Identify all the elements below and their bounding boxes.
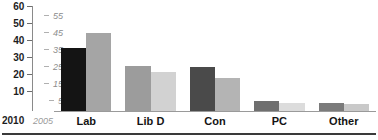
tick-mark-icon <box>44 66 49 67</box>
category-label-con: Con <box>190 113 240 129</box>
bar-group <box>254 6 304 111</box>
primary-axis-tick-label: 60 <box>13 2 24 12</box>
primary-axis-tick: 50 <box>13 18 32 28</box>
bar-2010[interactable] <box>319 103 344 111</box>
category-label-lab: Lab <box>61 113 111 129</box>
tick-mark-icon <box>44 15 49 16</box>
bar-group <box>125 6 175 111</box>
bar-2005[interactable] <box>279 103 304 111</box>
series-label-2005: 2005 <box>33 113 53 129</box>
bar-2005[interactable] <box>344 104 369 111</box>
primary-axis-tick: 10 <box>13 86 32 96</box>
primary-axis-tick: 30 <box>13 52 32 62</box>
primary-axis-tick-label: 20 <box>13 70 24 80</box>
category-labels-row: 2010 2005 LabLib DConPCOther <box>0 113 378 129</box>
primary-axis-tick: 60 <box>13 1 32 11</box>
series-label-2010: 2010 <box>2 113 24 129</box>
category-label-other: Other <box>319 113 369 129</box>
primary-axis-tick-label: 10 <box>13 87 24 97</box>
x-axis-baseline <box>54 111 376 112</box>
bar-2005[interactable] <box>215 78 240 111</box>
bar-2005[interactable] <box>151 72 176 111</box>
bar-group <box>319 6 369 111</box>
primary-axis-tick-label: 40 <box>13 36 24 46</box>
bottom-divider <box>2 133 376 135</box>
tick-mark-icon <box>44 32 49 33</box>
primary-y-axis: 60 50 40 30 20 10 <box>2 0 32 112</box>
bar-group <box>190 6 240 111</box>
primary-axis-tick: 20 <box>13 69 32 79</box>
plot-area <box>54 6 376 111</box>
tick-mark-icon <box>44 49 49 50</box>
primary-axis-tick-label: 30 <box>13 53 24 63</box>
bar-2005[interactable] <box>86 33 111 111</box>
category-label-pc: PC <box>254 113 304 129</box>
bar-group <box>61 6 111 111</box>
dual-axis-grouped-bar-chart: 60 50 40 30 20 10 55 45 35 25 <box>0 0 378 140</box>
bar-2010[interactable] <box>61 48 86 111</box>
tick-mark-icon <box>44 83 49 84</box>
bar-2010[interactable] <box>190 67 215 111</box>
bar-2010[interactable] <box>125 66 150 111</box>
category-label-lib-d: Lib D <box>125 113 175 129</box>
primary-axis-tick: 40 <box>13 35 32 45</box>
primary-axis-tick-label: 50 <box>13 19 24 29</box>
bar-2010[interactable] <box>254 101 279 111</box>
